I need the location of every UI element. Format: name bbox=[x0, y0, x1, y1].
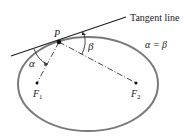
focus2-label: F2 bbox=[130, 88, 141, 101]
point-p bbox=[57, 40, 62, 45]
alpha-arc bbox=[34, 49, 47, 64]
tangent-label: Tangent line bbox=[130, 12, 180, 23]
alpha-label: α bbox=[29, 57, 35, 69]
equation-label: α = β bbox=[145, 39, 167, 50]
focus1-label: F1 bbox=[32, 88, 43, 101]
line-p-to-f1 bbox=[37, 42, 59, 83]
ellipse-diagram: Tangent line P α β α = β F1 F2 bbox=[0, 0, 188, 140]
focus-f2 bbox=[135, 82, 138, 85]
focus-f1 bbox=[36, 82, 39, 85]
tangent-line bbox=[11, 17, 126, 56]
point-p-label: P bbox=[53, 28, 60, 39]
beta-label: β bbox=[87, 40, 94, 52]
line-p-to-f2 bbox=[59, 42, 136, 83]
